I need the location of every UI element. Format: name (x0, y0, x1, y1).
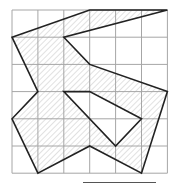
answer-blank-line (83, 182, 156, 183)
grid-polygon-diagram (0, 0, 178, 193)
